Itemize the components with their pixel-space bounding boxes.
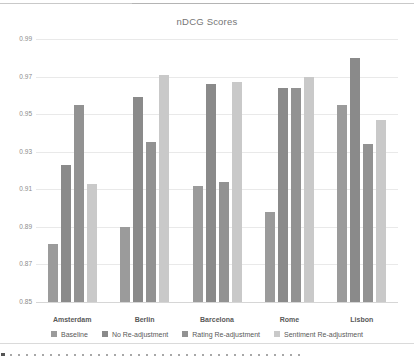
legend-swatch — [182, 331, 188, 337]
x-category-label: Amsterdam — [36, 316, 108, 323]
bar-rating-re-adjustment-berlin — [146, 142, 156, 302]
legend-item: Rating Re-adjustment — [182, 331, 260, 338]
bar-sentiment-re-adjustment-rome — [304, 77, 314, 302]
x-category-label: Barcelona — [181, 316, 253, 323]
legend-swatch — [51, 331, 57, 337]
bar-baseline-berlin — [120, 227, 130, 302]
legend-item: Sentiment Re-adjustment — [274, 331, 363, 338]
y-tick-label: 0.87 — [0, 260, 32, 268]
bar-baseline-rome — [265, 212, 275, 302]
y-tick-label: 0.99 — [0, 35, 32, 43]
bar-baseline-lisbon — [337, 105, 347, 302]
bar-no-re-adjustment-amsterdam — [61, 165, 71, 302]
bar-rating-re-adjustment-barcelona — [219, 182, 229, 302]
gridline — [36, 77, 398, 78]
bar-rating-re-adjustment-lisbon — [363, 144, 373, 302]
bar-baseline-barcelona — [193, 186, 203, 302]
figure-screenshot: nDCG Scores 0.990.970.950.930.910.890.87… — [0, 0, 414, 356]
bar-no-re-adjustment-rome — [278, 88, 288, 302]
bar-no-re-adjustment-berlin — [133, 97, 143, 302]
y-tick-label: 0.93 — [0, 148, 32, 156]
legend-label: No Re-adjustment — [112, 331, 168, 338]
bar-rating-re-adjustment-amsterdam — [74, 105, 84, 302]
legend-item: Baseline — [51, 331, 88, 338]
y-tick-label: 0.97 — [0, 73, 32, 81]
gridline — [36, 39, 398, 40]
x-category-label: Rome — [253, 316, 325, 323]
y-tick-label: 0.95 — [0, 110, 32, 118]
legend-label: Rating Re-adjustment — [192, 331, 260, 338]
legend-item: No Re-adjustment — [102, 331, 168, 338]
bar-sentiment-re-adjustment-berlin — [159, 75, 169, 302]
bar-sentiment-re-adjustment-lisbon — [376, 120, 386, 302]
bar-no-re-adjustment-lisbon — [350, 58, 360, 302]
bar-sentiment-re-adjustment-amsterdam — [87, 184, 97, 302]
y-tick-label: 0.91 — [0, 185, 32, 193]
bar-rating-re-adjustment-rome — [291, 88, 301, 302]
x-axis-line — [36, 302, 398, 303]
legend: BaselineNo Re-adjustmentRating Re-adjust… — [0, 328, 414, 340]
bar-baseline-amsterdam — [48, 244, 58, 302]
y-tick-label: 0.85 — [0, 298, 32, 306]
bottom-border-rule — [0, 343, 414, 344]
x-category-label: Berlin — [108, 316, 180, 323]
legend-swatch — [274, 331, 280, 337]
x-category-label: Lisbon — [326, 316, 398, 323]
legend-swatch — [102, 331, 108, 337]
plot-area: 0.990.970.950.930.910.890.870.85Amsterda… — [0, 0, 414, 356]
legend-label: Sentiment Re-adjustment — [284, 331, 363, 338]
bar-sentiment-re-adjustment-barcelona — [232, 82, 242, 302]
bar-no-re-adjustment-barcelona — [206, 84, 216, 302]
y-tick-label: 0.89 — [0, 223, 32, 231]
legend-label: Baseline — [61, 331, 88, 338]
